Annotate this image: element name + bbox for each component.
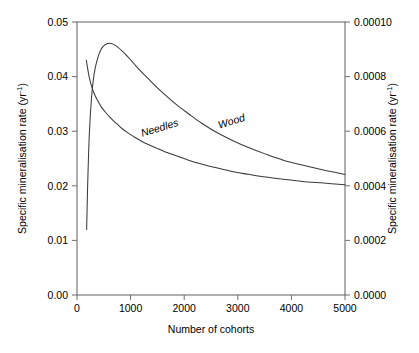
- y-right-tick-label: 0.00010: [354, 16, 392, 28]
- y-left-tick-label: 0.04: [48, 70, 69, 82]
- mineralisation-rate-line-chart: 0.000.010.020.030.040.05 0.00000.00020.0…: [0, 0, 419, 353]
- y-right-tick-label: 0.0004: [354, 180, 386, 192]
- y-left-tick-label: 0.03: [48, 125, 69, 137]
- y-axis-left-title: Specific mineralisation rate (yr-1): [15, 83, 28, 234]
- y-right-tick-label: 0.0006: [354, 125, 386, 137]
- x-tick-label: 2000: [173, 302, 197, 314]
- x-axis-title: Number of cohorts: [168, 323, 254, 335]
- x-tick-label: 5000: [333, 302, 357, 314]
- y-right-tick-label: 0.0002: [354, 234, 386, 246]
- y-left-tick-label: 0.05: [48, 16, 69, 28]
- x-tick-label: 4000: [280, 302, 304, 314]
- y-left-tick-label: 0.00: [48, 289, 69, 301]
- chart-figure: 0.000.010.020.030.040.05 0.00000.00020.0…: [0, 0, 419, 353]
- x-tick-label: 1000: [119, 302, 143, 314]
- y-left-tick-label: 0.02: [48, 180, 69, 192]
- y-right-tick-label: 0.0008: [354, 70, 386, 82]
- x-tick-label: 0: [74, 302, 80, 314]
- y-right-tick-label: 0.0000: [354, 289, 386, 301]
- y-left-tick-label: 0.01: [48, 234, 69, 246]
- y-axis-right-title: Specific mineralisation rate (yr-1): [385, 83, 398, 234]
- x-tick-label: 3000: [226, 302, 250, 314]
